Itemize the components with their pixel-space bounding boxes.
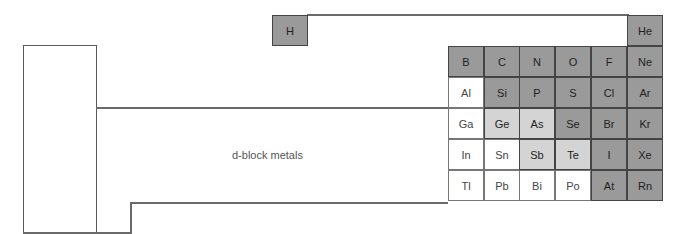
element-s: S bbox=[555, 77, 591, 108]
element-al: Al bbox=[448, 77, 484, 108]
d-block-top-line bbox=[96, 107, 448, 109]
element-i: I bbox=[591, 139, 627, 170]
element-xe: Xe bbox=[627, 139, 663, 170]
element-cl: Cl bbox=[591, 77, 627, 108]
element-p: P bbox=[519, 77, 555, 108]
element-he: He bbox=[627, 15, 663, 46]
d-block-label: d-block metals bbox=[232, 149, 303, 161]
element-bi: Bi bbox=[519, 170, 555, 201]
element-ne: Ne bbox=[627, 46, 663, 77]
element-rn: Rn bbox=[627, 170, 663, 201]
element-n: N bbox=[519, 46, 555, 77]
d-block-step-vertical bbox=[130, 202, 132, 234]
element-at: At bbox=[591, 170, 627, 201]
element-o: O bbox=[555, 46, 591, 77]
element-po: Po bbox=[555, 170, 591, 201]
element-as: As bbox=[519, 108, 555, 139]
element-sb: Sb bbox=[519, 139, 555, 170]
element-h: H bbox=[272, 15, 308, 46]
element-ar: Ar bbox=[627, 77, 663, 108]
element-te: Te bbox=[555, 139, 591, 170]
element-kr: Kr bbox=[627, 108, 663, 139]
element-se: Se bbox=[555, 108, 591, 139]
element-pb: Pb bbox=[484, 170, 520, 201]
element-c: C bbox=[484, 46, 520, 77]
element-f: F bbox=[591, 46, 627, 77]
d-block-step-horizontal bbox=[130, 202, 448, 204]
element-sn: Sn bbox=[484, 139, 520, 170]
element-ge: Ge bbox=[484, 108, 520, 139]
element-tl: Tl bbox=[448, 170, 484, 201]
s-block-outline bbox=[23, 45, 97, 234]
element-b: B bbox=[448, 46, 484, 77]
element-si: Si bbox=[484, 77, 520, 108]
top-outline bbox=[307, 14, 629, 16]
bottom-outline bbox=[23, 232, 131, 234]
element-ga: Ga bbox=[448, 108, 484, 139]
element-in: In bbox=[448, 139, 484, 170]
element-br: Br bbox=[591, 108, 627, 139]
